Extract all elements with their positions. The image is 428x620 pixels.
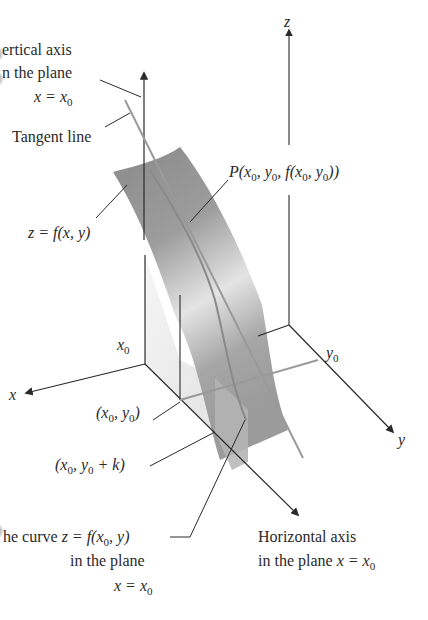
point-x0y0k-label: (x0, y0 + k) xyxy=(55,455,125,480)
z-axis-label: z xyxy=(284,12,290,32)
leader-vertical-axis xyxy=(100,80,141,97)
horizontal-axis-label-line1: Horizontal axis xyxy=(258,527,356,547)
point-x0y0-label: (x0, y0) xyxy=(96,403,140,428)
curve-label-line1: he curve z = f(x0, y) xyxy=(3,527,129,552)
surface-label: z = f(x, y) xyxy=(28,223,90,243)
leader-surface xyxy=(96,185,127,218)
point-P-label: P(x0, y0, f(x0, y0)) xyxy=(229,162,339,187)
vertical-axis-label-line2: n the plane xyxy=(2,63,72,83)
x-axis xyxy=(26,364,145,393)
partial-derivative-diagram: z ertical axis n the plane x = x0 Tangen… xyxy=(0,0,428,620)
curve-label-line2: in the plane xyxy=(70,551,145,571)
vertical-axis-label-line1: ertical axis xyxy=(2,40,72,60)
leader-tangent-line xyxy=(105,113,130,127)
y0-label: y0 xyxy=(326,343,339,368)
x-axis-label: x xyxy=(9,385,16,405)
vertical-axis-label-line3: x = x0 xyxy=(34,87,73,112)
x0-label: x0 xyxy=(117,335,130,360)
horizontal-axis-label-line2: in the plane x = x0 xyxy=(258,551,375,576)
curve-label-line3: x = x0 xyxy=(114,576,153,601)
y-axis-label: y xyxy=(398,430,405,450)
leader-x0y0 xyxy=(153,402,180,420)
y-axis xyxy=(289,325,393,432)
leader-x0y0k xyxy=(150,432,215,466)
tangent-line-label: Tangent line xyxy=(12,127,91,147)
